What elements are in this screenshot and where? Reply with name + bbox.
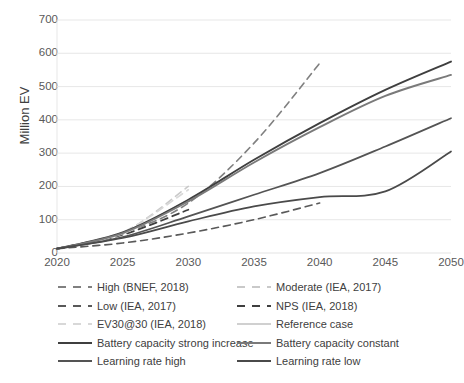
legend-swatch-solid [236,319,272,329]
caption-strip [0,370,462,383]
legend-swatch-solid [236,338,272,348]
legend-swatch-solid [236,356,272,366]
plot-canvas [0,0,462,275]
x-tick-label: 2020 [44,256,70,268]
x-axis-tick-labels: 2020202520302035204020452050 [0,256,462,276]
gridlines [57,20,451,253]
legend-swatch-solid [57,356,93,366]
legend-label: Learning rate low [276,355,360,367]
series-line [57,62,451,249]
legend-label: Reference case [276,318,353,330]
legend-label: EV30@30 (IEA, 2018) [97,318,206,330]
x-tick-label: 2035 [241,256,267,268]
legend-item[interactable]: High (BNEF, 2018) [57,281,189,293]
legend-label: Moderate (IEA, 2017) [276,281,381,293]
x-tick-label: 2040 [307,256,333,268]
legend-item[interactable]: Learning rate high [57,355,186,367]
legend-item[interactable]: Battery capacity constant [236,337,399,349]
x-tick-label: 2050 [438,256,464,268]
legend-label: NPS (IEA, 2018) [276,300,357,312]
legend-label: High (BNEF, 2018) [97,281,189,293]
legend-item[interactable]: Moderate (IEA, 2017) [236,281,381,293]
legend-label: Low (IEA, 2017) [97,300,176,312]
plot-area: Million EV 7006005004003002001000 202020… [0,0,462,275]
legend-swatch-dashed [57,301,93,311]
series-line [57,190,188,249]
legend-item[interactable]: Low (IEA, 2017) [57,300,176,312]
legend-label: Learning rate high [97,355,186,367]
chart-legend: High (BNEF, 2018)Moderate (IEA, 2017)Low… [0,281,462,373]
legend-item[interactable]: NPS (IEA, 2018) [236,300,357,312]
legend-swatch-dashed [236,301,272,311]
legend-swatch-dashed [57,319,93,329]
series-line [57,75,451,249]
series-line [57,186,188,248]
x-tick-label: 2045 [373,256,399,268]
series-line [57,118,451,248]
x-tick-label: 2025 [110,256,136,268]
series-line [57,200,188,249]
legend-item[interactable]: Reference case [236,318,353,330]
legend-swatch-solid [57,338,93,348]
legend-swatch-dashed [57,282,93,292]
x-tick-label: 2030 [176,256,202,268]
legend-label: Battery capacity constant [276,337,399,349]
legend-item[interactable]: Learning rate low [236,355,360,367]
legend-item[interactable]: EV30@30 (IEA, 2018) [57,318,206,330]
series-lines [57,62,451,249]
legend-swatch-dashed [236,282,272,292]
legend-label: Battery capacity strong increase [97,337,254,349]
legend-item[interactable]: Battery capacity strong increase [57,337,254,349]
